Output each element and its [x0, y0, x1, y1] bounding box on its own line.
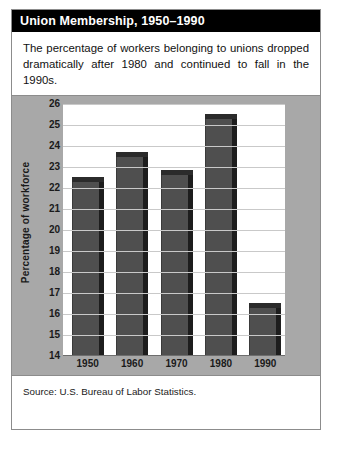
bar — [161, 175, 188, 356]
y-axis-tick-label: 17 — [49, 288, 60, 298]
gridline — [63, 146, 285, 147]
gridline — [63, 293, 285, 294]
gridline — [63, 125, 285, 126]
page-root: Union Membership, 1950–1990 The percenta… — [0, 0, 340, 453]
page-title: Union Membership, 1950–1990 — [20, 14, 205, 28]
figure-source: Source: U.S. Bureau of Labor Statistics. — [12, 376, 320, 397]
bar — [116, 157, 143, 357]
gridline — [63, 251, 285, 252]
gridline — [63, 209, 285, 210]
gridline — [63, 188, 285, 189]
bar-side-face — [143, 157, 148, 357]
x-axis-tick-label: 1970 — [165, 358, 187, 369]
bar-top-face — [249, 303, 281, 308]
bar-front-face — [72, 182, 100, 356]
figure-card: Union Membership, 1950–1990 The percenta… — [11, 9, 321, 430]
x-axis-tick-label: 1990 — [254, 358, 276, 369]
y-axis-tick-label: 24 — [49, 141, 60, 151]
y-axis-tick-label: 25 — [49, 120, 60, 130]
x-axis-tick-label: 1950 — [77, 358, 99, 369]
y-axis-tick-label: 21 — [49, 204, 60, 214]
bar-front-face — [116, 157, 144, 357]
y-axis-tick-label: 19 — [49, 246, 60, 256]
gridline — [63, 314, 285, 315]
y-axis-tick-label: 14 — [49, 351, 60, 361]
x-axis-tick-labels: 19501960197019801990 — [63, 358, 285, 372]
bar-front-face — [205, 119, 233, 356]
y-axis-title: Percentage of workforce — [18, 96, 34, 348]
x-axis-tick-label: 1980 — [210, 358, 232, 369]
bar-side-face — [232, 119, 237, 356]
bar — [72, 182, 99, 356]
gridline — [63, 104, 285, 105]
y-axis-tick-label: 15 — [49, 330, 60, 340]
y-axis-tick-label: 18 — [49, 267, 60, 277]
y-axis-title-label: Percentage of workforce — [21, 161, 32, 282]
bar-top-face — [72, 177, 104, 182]
chart-panel: Percentage of workforce 1415161718192021… — [12, 95, 320, 376]
y-axis-tick-label: 26 — [49, 99, 60, 109]
bar — [205, 119, 232, 356]
gridline — [63, 335, 285, 336]
bar-top-face — [116, 152, 148, 157]
plot-area — [63, 104, 285, 356]
y-axis-tick-labels: 14151617181920212223242526 — [34, 104, 60, 356]
bar-front-face — [161, 175, 189, 356]
x-axis-title: Year — [63, 373, 285, 376]
y-axis-tick-label: 20 — [49, 225, 60, 235]
x-axis-tick-label: 1960 — [121, 358, 143, 369]
y-axis-tick-label: 23 — [49, 162, 60, 172]
gridline — [63, 167, 285, 168]
bar-top-face — [161, 170, 193, 175]
gridline — [63, 230, 285, 231]
gridline — [63, 355, 285, 356]
y-axis-tick-label: 16 — [49, 309, 60, 319]
figure-title-bar: Union Membership, 1950–1990 — [12, 10, 320, 32]
bar-side-face — [99, 182, 104, 356]
figure-intro-text: The percentage of workers belonging to u… — [12, 32, 320, 95]
bar-side-face — [188, 175, 193, 356]
gridline — [63, 272, 285, 273]
bar-top-face — [205, 114, 237, 119]
y-axis-tick-label: 22 — [49, 183, 60, 193]
